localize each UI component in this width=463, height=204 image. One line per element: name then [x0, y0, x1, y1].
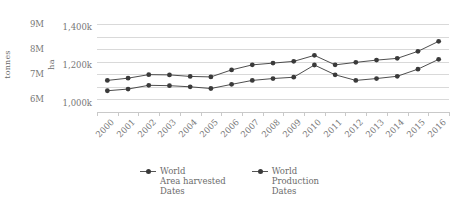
data-point[interactable] — [395, 56, 400, 61]
chart-legend: World Area harvested Dates World Product… — [140, 166, 370, 196]
x-tickmark — [118, 112, 119, 116]
data-point[interactable] — [126, 87, 131, 92]
data-point[interactable] — [208, 86, 213, 91]
x-tickmark — [159, 112, 160, 116]
legend-item-production[interactable]: World Production Dates — [252, 166, 319, 196]
data-point[interactable] — [353, 60, 358, 65]
x-tickmark — [180, 112, 181, 116]
data-point[interactable] — [416, 49, 421, 54]
data-point[interactable] — [188, 74, 193, 79]
data-point[interactable] — [208, 75, 213, 80]
data-point[interactable] — [291, 59, 296, 64]
data-point[interactable] — [229, 67, 234, 72]
data-point[interactable] — [353, 78, 358, 83]
x-tickmark — [449, 112, 450, 116]
data-point[interactable] — [167, 73, 172, 78]
x-tickmark — [304, 112, 305, 116]
data-point[interactable] — [291, 75, 296, 80]
legend-label-area-harvested: World Area harvested Dates — [160, 166, 226, 196]
legend-item-area-harvested[interactable]: World Area harvested Dates — [140, 166, 226, 196]
data-point[interactable] — [312, 63, 317, 68]
legend-label-production: World Production Dates — [272, 166, 319, 196]
x-tickmark — [221, 112, 222, 116]
x-tickmark — [387, 112, 388, 116]
data-point[interactable] — [436, 57, 441, 62]
x-tickmark — [345, 112, 346, 116]
data-point[interactable] — [126, 76, 131, 81]
x-tickmark — [97, 112, 98, 116]
x-tickmark — [283, 112, 284, 116]
x-tickmark — [242, 112, 243, 116]
x-tickmark — [366, 112, 367, 116]
data-point[interactable] — [105, 78, 110, 83]
data-point[interactable] — [105, 88, 110, 93]
data-point[interactable] — [167, 83, 172, 88]
x-tickmark — [263, 112, 264, 116]
data-point[interactable] — [374, 58, 379, 63]
data-point[interactable] — [333, 62, 338, 67]
data-point[interactable] — [333, 72, 338, 77]
date-production-area-line-chart: tonnes ha 6M7M8M9M 1,000k1,200k1,400k 20… — [0, 0, 463, 204]
data-point[interactable] — [312, 53, 317, 58]
data-point[interactable] — [271, 76, 276, 81]
data-point[interactable] — [436, 39, 441, 44]
data-point[interactable] — [374, 76, 379, 81]
data-point[interactable] — [146, 83, 151, 88]
legend-marker-icon — [252, 167, 268, 177]
data-point[interactable] — [271, 61, 276, 66]
x-tickmark — [428, 112, 429, 116]
x-tickmark — [408, 112, 409, 116]
x-tickmark — [325, 112, 326, 116]
data-point[interactable] — [250, 78, 255, 83]
data-point[interactable] — [395, 74, 400, 79]
data-point[interactable] — [229, 82, 234, 87]
x-tickmark — [201, 112, 202, 116]
data-point[interactable] — [188, 84, 193, 89]
legend-marker-icon — [140, 167, 156, 177]
x-tickmark — [138, 112, 139, 116]
data-point[interactable] — [416, 67, 421, 72]
data-point[interactable] — [146, 72, 151, 77]
data-point[interactable] — [250, 62, 255, 67]
